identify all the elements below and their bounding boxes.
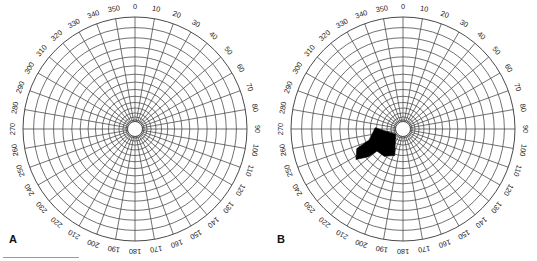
angle-tick-label: 0 bbox=[133, 2, 137, 11]
panel-a-letter: A bbox=[9, 234, 17, 245]
angle-tick-label: 130 bbox=[221, 200, 236, 215]
angle-tick-label: 230 bbox=[302, 200, 317, 215]
angle-tick-label: 260 bbox=[9, 143, 20, 157]
angle-tick-label: 340 bbox=[354, 8, 369, 21]
polar-diagram-a: 0102030405060708090100110120130140150160… bbox=[0, 0, 268, 261]
angle-tick-label: 280 bbox=[9, 101, 20, 115]
angle-tick-label: 60 bbox=[235, 62, 247, 74]
angle-tick-label: 270 bbox=[8, 123, 17, 135]
angle-tick-label: 170 bbox=[417, 244, 431, 255]
angle-tick-label: 180 bbox=[129, 247, 141, 256]
angle-tick-label: 190 bbox=[107, 244, 121, 255]
angle-tick-label: 290 bbox=[282, 80, 295, 95]
angle-tick-label: 0 bbox=[401, 2, 405, 11]
angle-tick-label: 180 bbox=[397, 247, 409, 256]
angle-tick-label: 220 bbox=[49, 215, 64, 230]
angle-tick-label: 350 bbox=[375, 3, 389, 14]
angle-tick-label: 20 bbox=[439, 9, 450, 20]
angle-tick-label: 310 bbox=[34, 43, 49, 58]
angle-tick-label: 10 bbox=[419, 4, 429, 14]
angle-tick-label: 90 bbox=[253, 125, 262, 133]
angle-tick-label: 140 bbox=[206, 215, 221, 230]
angle-tick-label: 310 bbox=[302, 43, 317, 58]
angle-tick-label: 220 bbox=[317, 215, 332, 230]
angle-tick-label: 130 bbox=[489, 200, 504, 215]
angle-tick-label: 350 bbox=[107, 3, 121, 14]
panel-b: 0102030405060708090100110120130140150160… bbox=[268, 0, 536, 261]
angle-tick-label: 320 bbox=[49, 28, 64, 43]
angle-tick-label: 160 bbox=[169, 237, 184, 250]
angle-tick-label: 10 bbox=[151, 4, 161, 14]
angle-tick-label: 20 bbox=[171, 9, 182, 20]
angle-tick-label: 290 bbox=[14, 80, 27, 95]
angle-tick-label: 30 bbox=[190, 17, 202, 29]
angle-tick-label: 110 bbox=[243, 164, 255, 178]
panel-a: 0102030405060708090100110120130140150160… bbox=[0, 0, 268, 261]
angle-tick-label: 330 bbox=[334, 16, 349, 30]
scale-bar bbox=[3, 257, 79, 258]
angle-tick-label: 60 bbox=[503, 62, 515, 74]
angle-tick-label: 70 bbox=[512, 82, 523, 93]
angle-tick-label: 100 bbox=[518, 143, 529, 157]
panel-b-letter: B bbox=[277, 234, 285, 245]
angle-tick-label: 40 bbox=[207, 29, 219, 41]
angle-tick-label: 80 bbox=[250, 103, 260, 113]
angle-tick-label: 160 bbox=[437, 237, 452, 250]
angle-tick-label: 240 bbox=[22, 182, 36, 197]
polar-diagram-b: 0102030405060708090100110120130140150160… bbox=[268, 0, 537, 261]
angle-tick-label: 120 bbox=[234, 182, 248, 197]
angle-tick-label: 140 bbox=[474, 215, 489, 230]
angle-tick-label: 50 bbox=[222, 45, 234, 57]
angle-tick-label: 300 bbox=[22, 60, 36, 75]
angle-tick-label: 340 bbox=[86, 8, 101, 21]
angle-tick-label: 280 bbox=[277, 101, 288, 115]
angle-tick-label: 300 bbox=[290, 60, 304, 75]
angle-tick-label: 30 bbox=[458, 17, 470, 29]
angle-tick-label: 90 bbox=[521, 125, 530, 133]
angle-tick-label: 150 bbox=[456, 228, 471, 242]
angle-tick-label: 260 bbox=[277, 143, 288, 157]
angle-tick-label: 80 bbox=[518, 103, 528, 113]
angle-tick-label: 210 bbox=[66, 228, 81, 242]
angle-tick-label: 210 bbox=[334, 228, 349, 242]
angle-tick-label: 70 bbox=[244, 82, 255, 93]
angle-tick-label: 40 bbox=[475, 29, 487, 41]
angle-tick-label: 330 bbox=[66, 16, 81, 30]
angle-tick-label: 270 bbox=[276, 123, 285, 135]
angle-tick-label: 190 bbox=[375, 244, 389, 255]
angle-tick-label: 230 bbox=[34, 200, 49, 215]
angle-tick-label: 200 bbox=[354, 237, 369, 250]
angle-tick-label: 320 bbox=[317, 28, 332, 43]
angle-tick-label: 250 bbox=[282, 163, 295, 178]
angle-tick-label: 120 bbox=[502, 182, 516, 197]
angle-tick-label: 200 bbox=[86, 237, 101, 250]
angle-tick-label: 170 bbox=[149, 244, 163, 255]
angle-tick-label: 250 bbox=[14, 163, 27, 178]
angle-tick-label: 240 bbox=[290, 182, 304, 197]
angle-tick-label: 150 bbox=[188, 228, 203, 242]
angle-tick-label: 100 bbox=[250, 143, 261, 157]
angle-tick-label: 110 bbox=[511, 164, 523, 178]
angle-tick-label: 50 bbox=[490, 45, 502, 57]
